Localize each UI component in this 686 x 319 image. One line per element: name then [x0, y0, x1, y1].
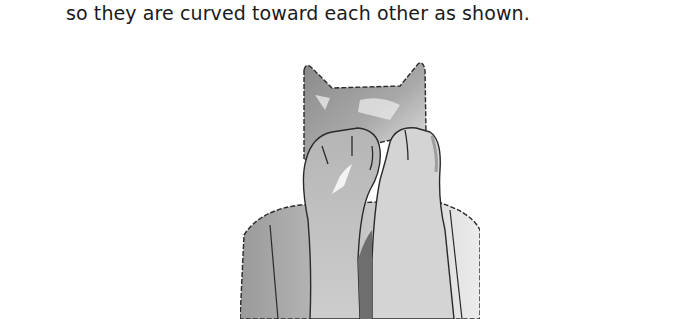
cat-puppet-illustration: [240, 60, 480, 319]
puppet-right-arm: [372, 128, 454, 319]
instruction-text: so they are curved toward each other as …: [66, 2, 530, 24]
